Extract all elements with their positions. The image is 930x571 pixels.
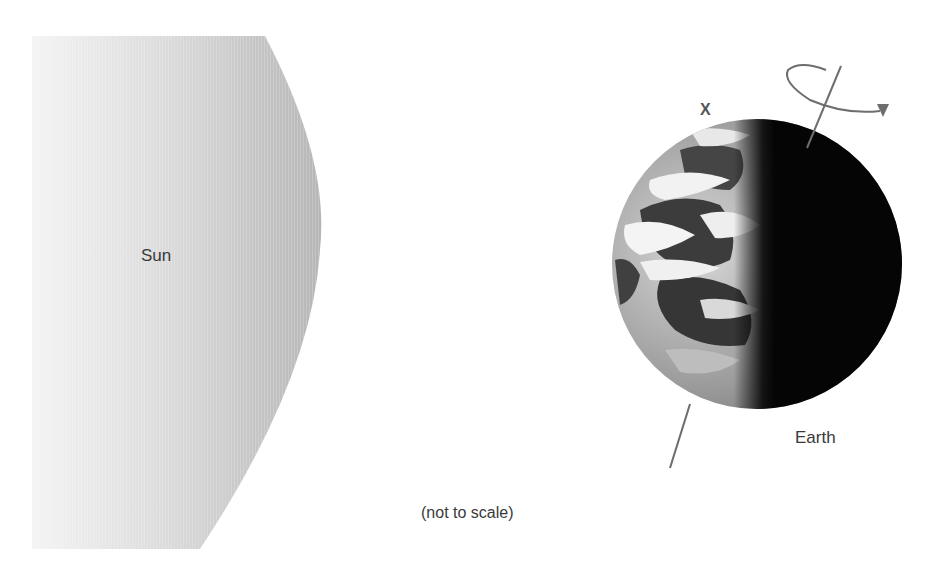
earth-label: Earth — [795, 429, 836, 446]
sun-shape — [32, 36, 321, 549]
earth-globe — [612, 119, 902, 409]
diagram-canvas — [0, 0, 930, 571]
point-x-marker: X — [700, 102, 711, 118]
sun-label: Sun — [141, 247, 171, 264]
rotation-axis-bottom — [670, 404, 690, 468]
scale-note: (not to scale) — [421, 505, 513, 521]
